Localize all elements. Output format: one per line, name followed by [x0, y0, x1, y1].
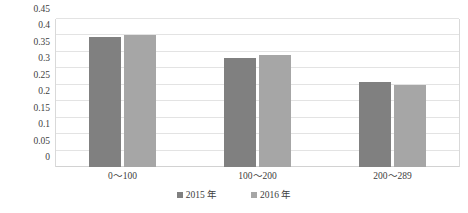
y-axis: 00.050.10.150.20.250.30.350.40.45 — [0, 19, 50, 167]
x-axis-tick-label: 100～200 — [190, 170, 325, 183]
bar-group — [359, 19, 426, 167]
y-axis-tick-label: 0 — [0, 152, 50, 162]
legend-item[interactable]: 2016 年 — [251, 189, 291, 201]
legend-label: 2016 年 — [260, 189, 291, 201]
bar-group — [89, 19, 156, 167]
y-axis-tick-label: 0.1 — [0, 119, 50, 129]
bar-2016[interactable] — [394, 85, 426, 167]
y-axis-tick-label: 0.05 — [0, 136, 50, 146]
y-axis-tick-label: 0.4 — [0, 20, 50, 30]
bar-2015[interactable] — [89, 37, 121, 167]
bar-2015[interactable] — [359, 82, 391, 168]
bar-group — [224, 19, 291, 167]
bar-chart: 00.050.10.150.20.250.30.350.40.45 0～1001… — [0, 0, 468, 213]
y-axis-tick-label: 0.35 — [0, 37, 50, 47]
y-axis-tick-label: 0.45 — [0, 4, 50, 14]
bars-layer — [55, 19, 460, 167]
y-axis-tick-label: 0.2 — [0, 86, 50, 96]
x-axis-tick-label: 0～100 — [55, 170, 190, 183]
legend-item[interactable]: 2015 年 — [177, 189, 217, 201]
x-axis-tick-label: 200～289 — [325, 170, 460, 183]
legend-label: 2015 年 — [186, 189, 217, 201]
y-axis-tick-label: 0.3 — [0, 53, 50, 63]
y-axis-tick-label: 0.25 — [0, 70, 50, 80]
chart-legend: 2015 年2016 年 — [0, 189, 468, 201]
bar-2016[interactable] — [124, 35, 156, 167]
y-axis-tick-label: 0.15 — [0, 103, 50, 113]
legend-swatch-icon — [251, 192, 257, 198]
bar-2016[interactable] — [259, 55, 291, 167]
bar-2015[interactable] — [224, 58, 256, 167]
x-axis: 0～100100～200200～289 — [55, 170, 460, 186]
legend-swatch-icon — [177, 192, 183, 198]
